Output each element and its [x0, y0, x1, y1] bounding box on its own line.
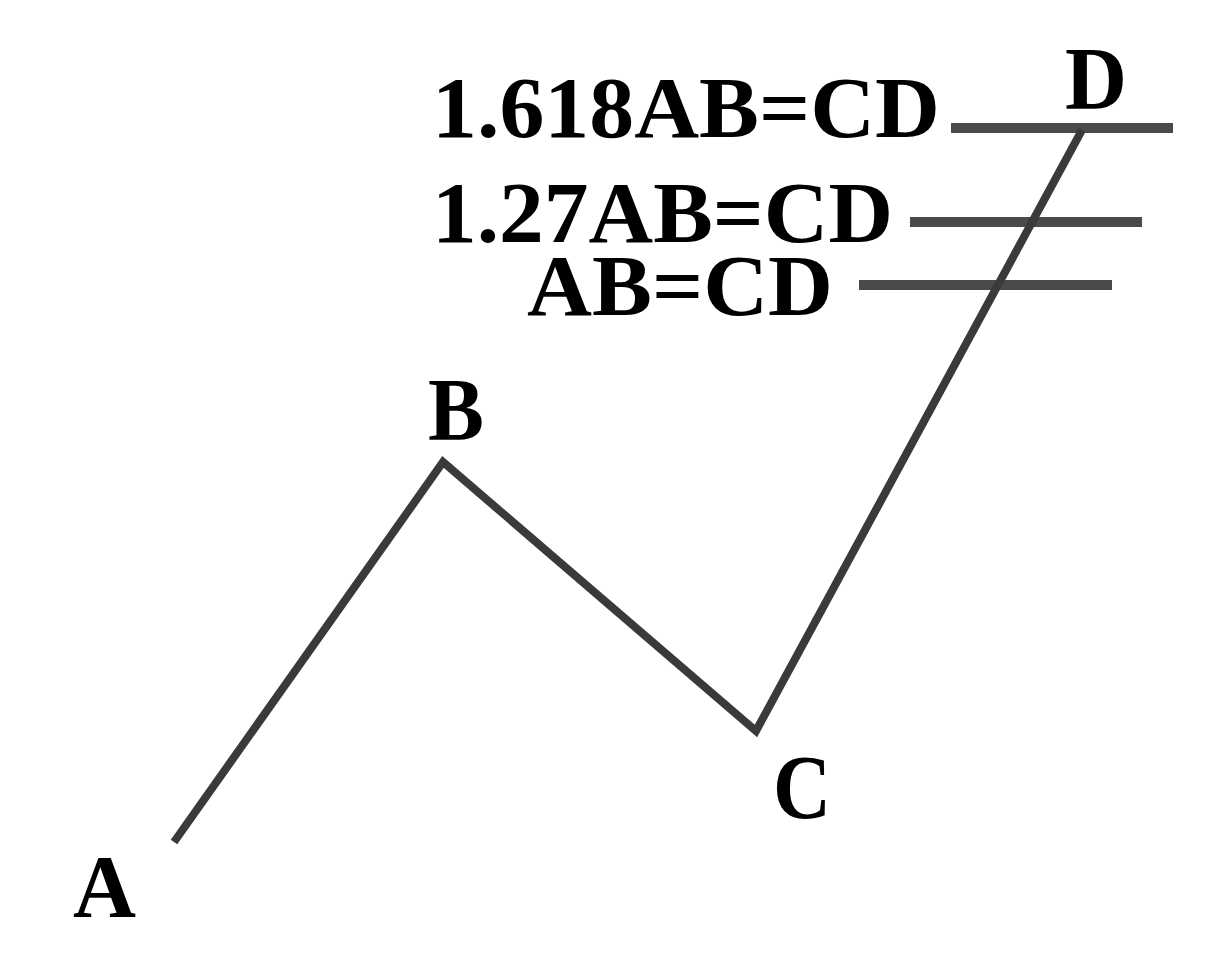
point-label-c: C — [773, 736, 831, 838]
abcd-pattern-diagram: 1.618AB=CD 1.27AB=CD AB=CD A B C D — [0, 0, 1226, 978]
level-label-1618: 1.618AB=CD — [432, 60, 940, 156]
point-label-a: A — [73, 838, 136, 935]
point-label-b: B — [428, 361, 484, 458]
point-label-d: D — [1065, 30, 1127, 127]
level-label-1: AB=CD — [527, 238, 833, 334]
